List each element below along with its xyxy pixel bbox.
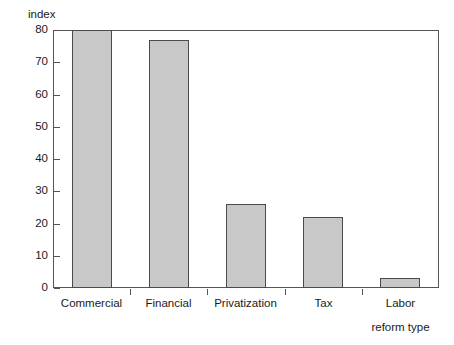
x-axis-title: reform type (362, 321, 439, 334)
y-axis-tick-mark (54, 191, 60, 192)
x-axis-tick-label: Tax (285, 297, 362, 310)
y-axis-title: index (28, 8, 56, 21)
y-axis-tick-label: 80 (18, 24, 48, 36)
y-axis-tick-mark (54, 159, 60, 160)
y-axis-tick-label: 50 (18, 121, 48, 133)
y-axis-tick-mark (54, 127, 60, 128)
x-axis-tick-label: Commercial (53, 297, 130, 310)
x-axis-tick-mark (362, 289, 363, 295)
x-axis-tick-label: Financial (130, 297, 207, 310)
x-axis-tick-label: Labor (362, 297, 439, 310)
x-axis-tick-label: Privatization (207, 297, 284, 310)
bar (380, 278, 420, 288)
bar (226, 204, 266, 288)
x-axis-tick-mark (285, 289, 286, 295)
y-axis-tick-label: 10 (18, 250, 48, 262)
y-axis-tick-label: 30 (18, 185, 48, 197)
x-axis-tick-mark (207, 289, 208, 295)
bar (303, 217, 343, 288)
y-axis-tick-mark (54, 288, 60, 289)
y-axis-tick-mark (54, 62, 60, 63)
y-axis-tick-label: 60 (18, 89, 48, 101)
bar-chart-figure: index 01020304050607080 CommercialFinanc… (0, 0, 454, 345)
bar (72, 30, 112, 288)
y-axis-tick-mark (54, 95, 60, 96)
bar (149, 40, 189, 288)
y-axis-tick-mark (54, 30, 60, 31)
y-axis-tick-mark (54, 224, 60, 225)
y-axis-tick-label: 40 (18, 153, 48, 165)
y-axis-tick-label: 0 (18, 282, 48, 294)
y-axis-tick-label: 70 (18, 56, 48, 68)
x-axis-tick-mark (130, 289, 131, 295)
y-axis-tick-label: 20 (18, 218, 48, 230)
y-axis-tick-mark (54, 256, 60, 257)
